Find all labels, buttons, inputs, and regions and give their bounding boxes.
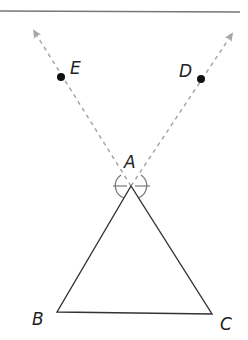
geometry-figure: E D A B C — [0, 0, 248, 340]
point-e — [57, 73, 65, 81]
label-a: A — [123, 152, 136, 172]
ray-ae — [34, 31, 131, 186]
point-d — [197, 75, 205, 83]
label-d: D — [179, 61, 192, 81]
triangle-abc — [57, 186, 212, 314]
label-e: E — [70, 58, 81, 78]
top-rule-line — [0, 11, 240, 12]
ray-ad — [131, 34, 232, 186]
label-c: C — [220, 314, 232, 334]
label-b: B — [32, 309, 44, 329]
diagram-canvas: E D A B C — [0, 0, 248, 340]
